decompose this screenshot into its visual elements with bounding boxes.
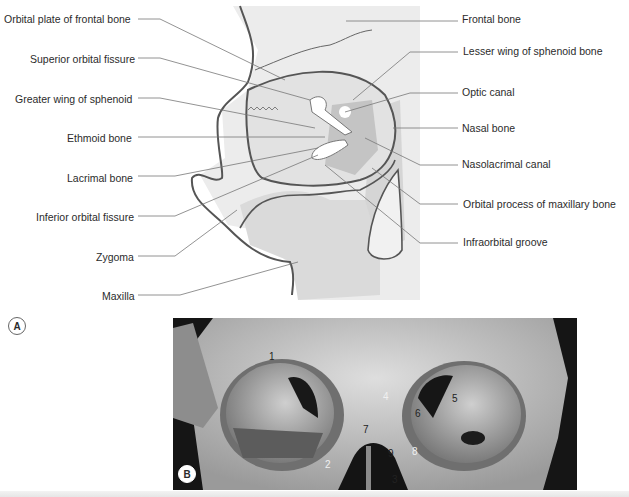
label-left-0: Orbital plate of frontal bone xyxy=(4,13,131,25)
label-right-5: Orbital process of maxillary bone xyxy=(463,198,616,210)
label-left-2: Greater wing of sphenoid xyxy=(15,93,132,105)
label-left-7: Maxilla xyxy=(102,290,135,302)
photo-marker-1: 1 xyxy=(269,351,275,362)
skull-photograph xyxy=(173,318,577,490)
photo-marker-4: 4 xyxy=(383,391,389,402)
label-left-4: Lacrimal bone xyxy=(67,172,133,184)
label-right-4: Nasolacrimal canal xyxy=(462,158,551,170)
label-left-1: Superior orbital fissure xyxy=(30,53,135,65)
label-right-2: Optic canal xyxy=(462,86,515,98)
panel-b-badge: B xyxy=(178,465,196,483)
label-left-5: Inferior orbital fissure xyxy=(36,211,134,223)
caption-strip xyxy=(0,491,629,497)
photo-marker-9: 9 xyxy=(388,448,394,459)
label-left-3: Ethmoid bone xyxy=(67,132,132,144)
label-right-0: Frontal bone xyxy=(462,13,521,25)
photo-marker-7: 7 xyxy=(363,424,369,435)
photo-marker-6: 6 xyxy=(415,408,421,419)
label-right-6: Infraorbital groove xyxy=(463,236,548,248)
photo-marker-8: 8 xyxy=(412,446,418,457)
label-right-3: Nasal bone xyxy=(462,122,515,134)
photo-marker-5: 5 xyxy=(452,393,458,404)
panel-a-badge: A xyxy=(8,317,26,335)
photo-marker-2: 2 xyxy=(325,459,331,470)
label-right-1: Lesser wing of sphenoid bone xyxy=(463,45,603,57)
skull-illustration xyxy=(173,318,577,490)
panel-a-badge-label: A xyxy=(13,321,20,332)
photo-marker-3: 3 xyxy=(392,474,398,485)
panel-b-badge-label: B xyxy=(183,469,190,480)
label-left-6: Zygoma xyxy=(96,251,134,263)
maxilla-region xyxy=(240,191,380,300)
